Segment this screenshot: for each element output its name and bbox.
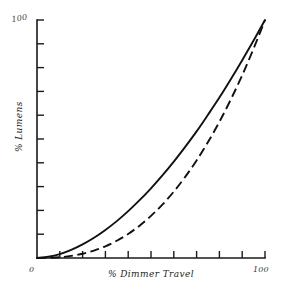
- chart-plot-area: 100 0 100 % Dimmer Travel % Lumens: [0, 0, 288, 291]
- origin-label: 0: [29, 265, 34, 274]
- chart-figure: 100 0 100 % Dimmer Travel % Lumens: [0, 0, 288, 291]
- series-dashed-curve: [37, 20, 265, 258]
- series-solid-curve: [37, 20, 265, 258]
- x-axis-max-label: 100: [253, 265, 269, 274]
- y-axis-ticks: [37, 20, 44, 234]
- x-axis-title: % Dimmer Travel: [108, 269, 194, 279]
- y-axis-title: % Lumens: [14, 101, 24, 152]
- y-axis-max-label: 100: [11, 13, 28, 24]
